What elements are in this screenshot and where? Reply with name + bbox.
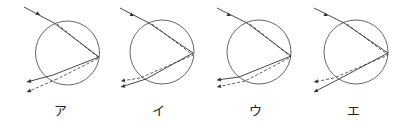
incoming-ray — [120, 8, 149, 23]
diagram-i — [120, 8, 194, 88]
dashed-ray-inside — [334, 24, 388, 78]
option-label-e: エ — [338, 103, 368, 119]
solid-exit-ray — [27, 75, 53, 82]
dashed-exit-arrow-icon — [217, 84, 221, 88]
dashed-exit-arrow-icon — [121, 78, 125, 82]
option-label-u: ウ — [240, 103, 270, 119]
dashed-ray-inside — [140, 24, 193, 78]
dashed-exit-arrow-icon — [27, 89, 31, 93]
solid-ray-inside — [53, 23, 99, 75]
dashed-exit-ray — [217, 81, 245, 87]
droplet-circle — [227, 20, 291, 84]
incoming-ray — [314, 8, 344, 23]
option-label-a: ア — [45, 103, 75, 119]
dashed-exit-arrow-icon — [314, 79, 318, 83]
incoming-ray — [217, 8, 247, 23]
droplet-circle — [36, 21, 100, 85]
droplet-circle — [324, 20, 388, 84]
option-label-i: イ — [143, 103, 173, 119]
solid-exit-arrow-icon — [27, 79, 31, 83]
droplet-circle — [130, 20, 194, 84]
diagram-a — [24, 7, 100, 92]
diagram-u — [217, 8, 291, 88]
diagram-e — [314, 8, 388, 92]
incoming-ray — [24, 7, 54, 23]
